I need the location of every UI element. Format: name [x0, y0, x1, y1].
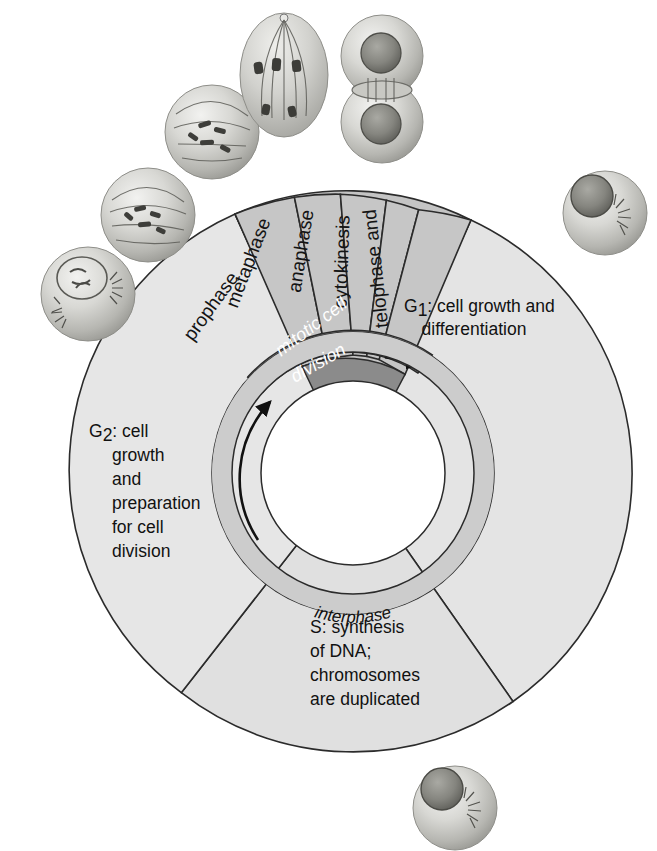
label-s-line3: chromosomes — [310, 665, 420, 685]
cell-g1-interphase-cell — [563, 171, 647, 255]
g1-g: G — [404, 296, 418, 316]
cell-prophase-cell — [41, 247, 135, 341]
cell-anaphase-cell — [240, 13, 328, 137]
cell-telophase-cytokinesis-cell — [341, 15, 423, 163]
g2-subscript: 2 — [103, 425, 113, 445]
cell-s-phase-cell — [413, 766, 497, 850]
g1-rest: : cell growth and — [427, 296, 554, 316]
label-s-line1: S: synthesis — [310, 617, 405, 637]
label-g1-line2: differentiation — [422, 319, 527, 339]
label-g2-line3: and — [112, 469, 141, 489]
label-cytokinesis: cytokinesis — [329, 215, 353, 309]
hub-white-circle — [261, 381, 445, 565]
cell-cycle-diagram: prophase metaphase anaphase cytokinesis … — [0, 0, 657, 851]
diagram-canvas: prophase metaphase anaphase cytokinesis … — [0, 0, 657, 851]
label-s-line4: are duplicated — [310, 689, 420, 709]
g2-g: G — [89, 421, 103, 441]
cell-prophase-cell-2 — [101, 168, 195, 262]
label-g2-line5: for cell — [112, 517, 164, 537]
g1-subscript: 1 — [418, 300, 428, 320]
label-g2-line2: growth — [112, 445, 165, 465]
label-g2-line6: division — [112, 541, 170, 561]
g2-rest: : cell — [112, 421, 148, 441]
label-g2-line4: preparation — [112, 493, 201, 513]
label-s-line2: of DNA; — [310, 641, 371, 661]
